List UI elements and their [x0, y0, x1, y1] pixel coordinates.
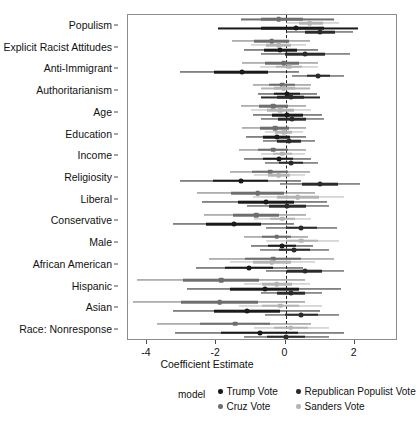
estimate-row — [128, 277, 396, 297]
legend-item[interactable]: Republican Populist Vote — [296, 386, 416, 397]
point-estimate-marker — [275, 282, 280, 287]
y-axis-tick — [114, 68, 118, 69]
legend: model Trump VoteRepublican Populist Vote… — [0, 378, 414, 418]
estimate-row — [128, 211, 396, 231]
y-axis-label: Asian — [86, 302, 112, 313]
point-estimate-marker — [254, 213, 259, 218]
estimate-row — [128, 146, 396, 166]
x-axis-tick — [215, 340, 216, 344]
point-estimate-marker — [256, 191, 261, 196]
y-axis-label: Conservative — [51, 215, 112, 226]
point-estimate-marker — [240, 69, 245, 74]
point-estimate-marker — [276, 17, 281, 22]
legend-item-label: Cruz Vote — [227, 401, 271, 412]
point-estimate-marker — [231, 222, 236, 227]
legend-marker-icon — [296, 389, 301, 394]
x-axis-tick-label: 0 — [282, 346, 288, 358]
estimate-row — [128, 103, 396, 123]
x-axis-tick-label: -2 — [211, 346, 220, 358]
point-estimate-marker — [299, 225, 304, 230]
point-estimate-marker — [288, 325, 293, 330]
y-axis-label: Race: Nonresponse — [19, 324, 112, 335]
y-axis-label: Hispanic — [72, 280, 112, 291]
legend-item[interactable]: Trump Vote — [218, 386, 278, 397]
point-estimate-marker — [287, 64, 292, 69]
y-axis-tick — [114, 177, 118, 178]
legend-item[interactable]: Cruz Vote — [218, 401, 270, 412]
estimate-row — [128, 233, 396, 253]
x-axis-tick — [146, 340, 147, 344]
y-axis-label: Religiosity — [64, 172, 112, 183]
y-axis-tick — [114, 155, 118, 156]
y-axis-tick — [114, 329, 118, 330]
y-axis-labels: PopulismExplicit Racist AttitudesAnti-Im… — [0, 14, 120, 340]
y-axis-tick — [114, 242, 118, 243]
y-axis-tick — [114, 307, 118, 308]
estimate-row — [128, 16, 396, 36]
point-estimate-marker — [264, 200, 269, 205]
point-estimate-marker — [262, 287, 267, 292]
point-estimate-marker — [280, 151, 285, 156]
y-axis-tick — [114, 133, 118, 134]
inner-confidence-band — [261, 18, 303, 21]
y-axis-tick — [114, 111, 118, 112]
y-axis-label: Age — [93, 106, 112, 117]
y-axis-tick — [114, 90, 118, 91]
y-axis-label: Populism — [69, 19, 112, 30]
point-estimate-marker — [318, 30, 323, 35]
legend-marker-icon — [218, 389, 223, 394]
x-axis-tick-label: 2 — [351, 346, 357, 358]
estimate-row — [128, 255, 396, 275]
x-axis-tick-label: -4 — [141, 346, 150, 358]
y-axis-label: Authoritarianism — [36, 85, 112, 96]
legend-marker-icon — [296, 404, 301, 409]
point-estimate-marker — [318, 182, 323, 187]
y-axis-label: Male — [89, 237, 112, 248]
point-estimate-marker — [302, 51, 307, 56]
point-estimate-marker — [278, 303, 283, 308]
estimate-row — [128, 59, 396, 79]
estimate-row — [128, 125, 396, 145]
y-axis-tick — [114, 198, 118, 199]
point-estimate-marker — [281, 130, 286, 135]
y-axis-tick — [114, 285, 118, 286]
legend-marker-icon — [218, 404, 223, 409]
x-axis-tick — [285, 340, 286, 344]
legend-item-label: Republican Populist Vote — [305, 386, 416, 397]
y-axis-tick — [114, 220, 118, 221]
x-axis: -4-202 — [127, 340, 397, 341]
estimate-row — [128, 168, 396, 188]
point-estimate-marker — [217, 300, 222, 305]
y-axis-label: Income — [78, 150, 112, 161]
point-estimate-marker — [290, 117, 295, 122]
x-axis-title: Coefficient Estimate — [0, 358, 414, 370]
point-estimate-marker — [278, 48, 283, 53]
y-axis-tick — [114, 263, 118, 264]
point-estimate-marker — [288, 160, 293, 165]
point-estimate-marker — [233, 321, 238, 326]
point-estimate-marker — [288, 291, 293, 296]
y-axis-label: Explicit Racist Attitudes — [3, 41, 112, 52]
estimate-row — [128, 190, 396, 210]
point-estimate-marker — [316, 73, 321, 78]
point-estimate-marker — [285, 204, 290, 209]
point-estimate-marker — [269, 260, 274, 265]
point-estimate-marker — [276, 43, 281, 48]
y-axis-tick — [114, 46, 118, 47]
point-estimate-marker — [307, 21, 312, 26]
point-estimate-marker — [295, 195, 300, 200]
point-estimate-marker — [302, 269, 307, 274]
point-estimate-marker — [292, 247, 297, 252]
point-estimate-marker — [293, 26, 298, 31]
y-axis-label: Anti-Immigrant — [44, 63, 112, 74]
legend-item[interactable]: Sanders Vote — [296, 401, 365, 412]
y-axis-label: Liberal — [80, 193, 112, 204]
point-estimate-marker — [257, 330, 262, 335]
point-estimate-marker — [247, 265, 252, 270]
estimate-row — [128, 320, 396, 340]
point-estimate-marker — [275, 234, 280, 239]
y-axis-label: African American — [33, 258, 112, 269]
point-estimate-marker — [299, 312, 304, 317]
x-axis-tick — [354, 340, 355, 344]
